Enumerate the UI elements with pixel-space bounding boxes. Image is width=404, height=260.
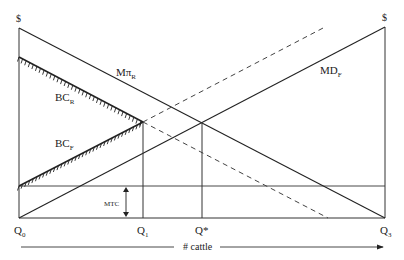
marginal-damage-label: MDF — [320, 64, 342, 79]
left-axis-label: $ — [16, 13, 21, 24]
right-axis-label: $ — [382, 12, 387, 23]
x-axis-label: # cattle — [183, 241, 213, 252]
marginal-profit-label: MπR — [116, 66, 136, 81]
coase-bargaining-diagram: MTC $ $ MπR MDF BCR BCF Q0 Q1 Q* Q3 # ca… — [0, 0, 404, 260]
shifted-profit-dashed-line — [143, 122, 328, 218]
q1-label: Q1 — [137, 224, 149, 239]
q0-label: Q0 — [14, 224, 26, 239]
q-star-label: Q* — [195, 224, 208, 236]
shifted-damage-dashed-line — [143, 27, 325, 122]
bc-rancher-label: BCR — [55, 91, 75, 106]
bc-farmer-label: BCF — [55, 137, 74, 152]
bc-farmer-line — [19, 122, 143, 186]
bc-farmer-hatching — [18, 123, 142, 191]
mtc-label: MTC — [104, 200, 120, 208]
q3-label: Q3 — [380, 224, 392, 239]
